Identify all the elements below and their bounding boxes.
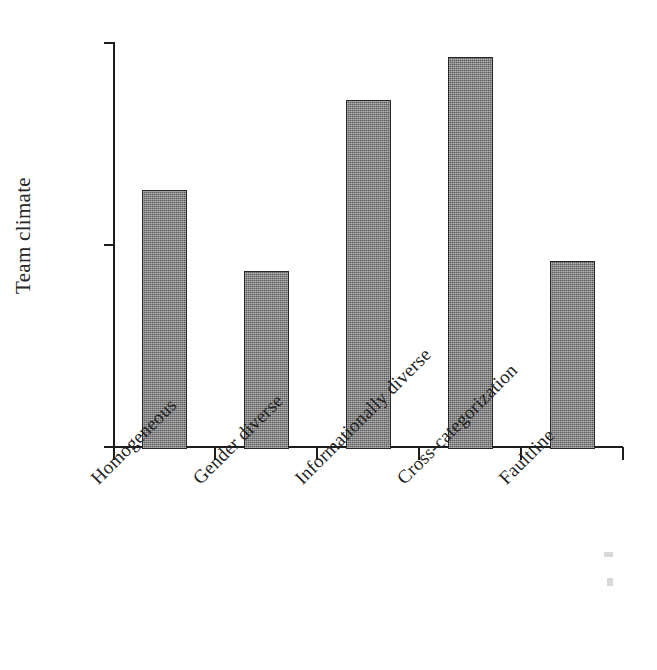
y-axis-title: Team climate — [0, 0, 46, 470]
y-tick-1 — [104, 244, 115, 246]
bar-chart-figure: Team climate 3.04.05.0 HomogeneousGender… — [0, 0, 657, 670]
y-tick-2 — [104, 42, 115, 44]
bar-4 — [550, 261, 595, 449]
scan-speck — [607, 578, 613, 586]
y-axis-title-text: Team climate — [11, 177, 36, 294]
plot-area: 3.04.05.0 — [113, 43, 623, 447]
x-tick-5 — [622, 447, 624, 460]
scan-speck — [604, 552, 613, 557]
